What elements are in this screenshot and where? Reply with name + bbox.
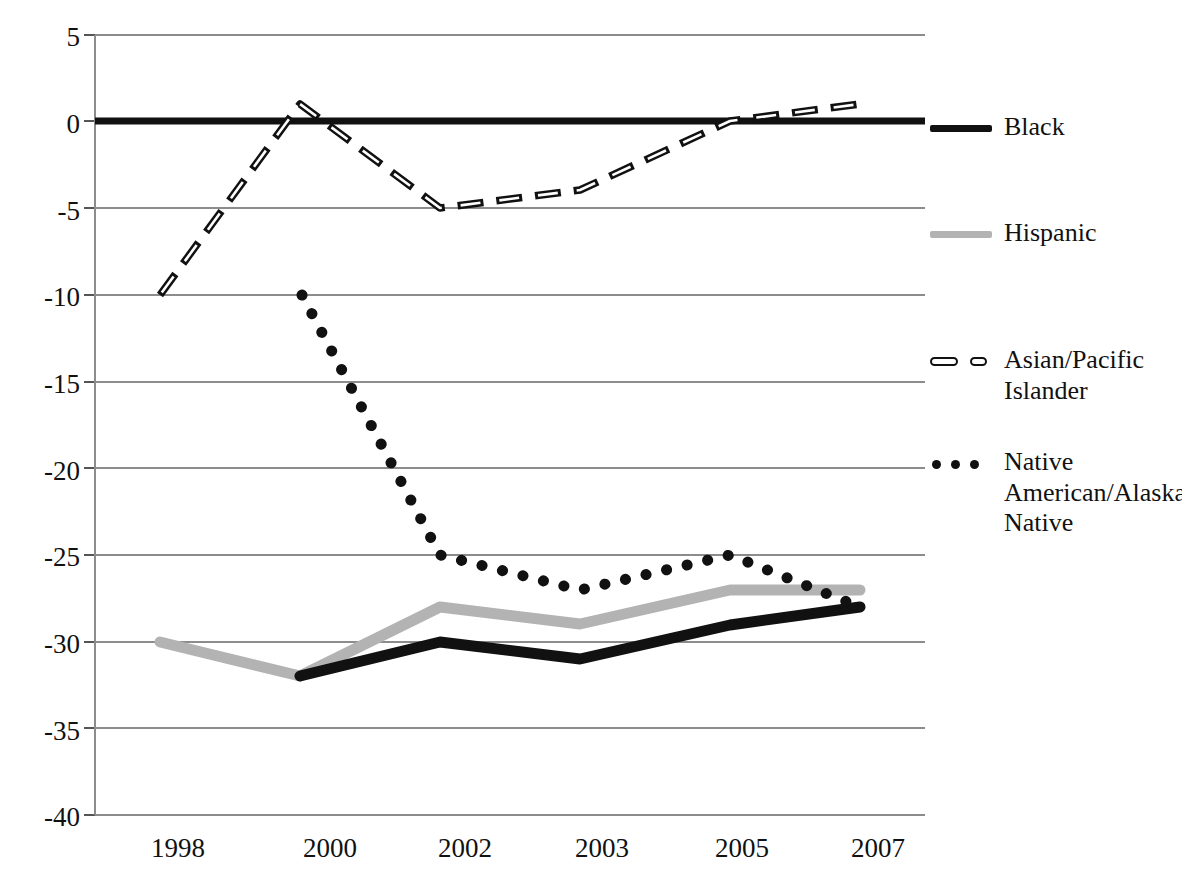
chart-container: 5 0 -5 -10 -15 -20 -25 -30 -35 -40 — [0, 0, 1182, 886]
xtick-label-2003: 2003 — [575, 835, 629, 862]
xtick-label-2002: 2002 — [438, 835, 492, 862]
legend-item-black[interactable]: Black — [930, 112, 1065, 143]
legend-item-hispanic[interactable]: Hispanic — [930, 218, 1096, 249]
gridlines — [95, 35, 925, 815]
xtick-label-2007: 2007 — [851, 835, 905, 862]
y-axis-ticks — [84, 35, 95, 815]
legend-label-native-american-alaskan-native: Native American/Alaskan Native — [1004, 447, 1179, 539]
solid-gray-line-icon — [930, 222, 992, 246]
dotted-line-icon — [930, 451, 992, 475]
legend-item-native-american-alaskan-native[interactable]: Native American/Alaskan Native — [930, 447, 1179, 539]
legend-label-black: Black — [1004, 112, 1065, 143]
xtick-label-2005: 2005 — [715, 835, 769, 862]
xtick-label-1998: 1998 — [151, 835, 205, 862]
dashed-line-icon — [930, 349, 992, 373]
xtick-label-2000: 2000 — [303, 835, 357, 862]
legend-item-asian-pacific-islander[interactable]: Asian/Pacific Islander — [930, 345, 1179, 406]
solid-black-line-icon — [930, 116, 992, 140]
legend: Black Hispanic Asian/Pacific Islander Na… — [930, 0, 1182, 886]
legend-label-hispanic: Hispanic — [1004, 218, 1096, 249]
series-native-american-alaskan-native — [302, 295, 860, 607]
legend-label-asian-pacific-islander: Asian/Pacific Islander — [1004, 345, 1179, 406]
series-asian-pacific-islander-inner — [160, 104, 860, 295]
series-hispanic — [160, 590, 860, 676]
